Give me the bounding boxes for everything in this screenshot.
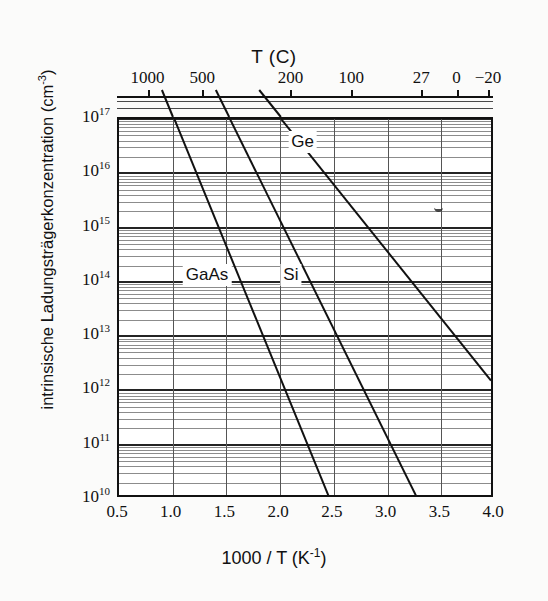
- y-tick-base: 10: [82, 378, 99, 397]
- top-axis-tick-label: 500: [190, 68, 216, 88]
- y-axis-tick-label: 1013: [62, 324, 110, 344]
- y-tick-base: 10: [82, 433, 99, 452]
- y-tick-exponent: 16: [99, 160, 110, 172]
- y-axis-tick-label: 1011: [62, 433, 110, 453]
- x-axis-tick-label: 2.0: [268, 502, 289, 522]
- y-tick-base: 10: [82, 270, 99, 289]
- series-overshoot-ge: [259, 90, 281, 117]
- y-tick-base: 10: [82, 216, 99, 235]
- top-axis-tick-label: 100: [339, 68, 365, 88]
- y-axis-tick-label: 1010: [62, 487, 110, 507]
- y-tick-exponent: 13: [99, 322, 110, 334]
- top-axis-tick-label: 1000: [131, 68, 165, 88]
- x-axis-tick-label: 4.0: [482, 502, 503, 522]
- top-axis-tick-label: 27: [413, 68, 430, 88]
- series-line-ge: [248, 117, 491, 381]
- top-axis-tick-label: 200: [278, 68, 304, 88]
- y-axis-tick-label: 1015: [62, 216, 110, 236]
- y-tick-base: 10: [82, 107, 99, 126]
- top-axis-title: T (C): [0, 46, 548, 68]
- x-axis-tick-label: 3.0: [375, 502, 396, 522]
- y-axis-title-text: intrinsische Ladungsträgerkonzentration …: [38, 85, 56, 410]
- series-label-ge: Ge: [288, 131, 317, 153]
- y-tick-exponent: 15: [99, 214, 110, 226]
- y-tick-base: 10: [82, 324, 99, 343]
- y-tick-base: 10: [82, 487, 99, 506]
- x-axis-tick-label: 3.5: [429, 502, 450, 522]
- y-tick-base: 10: [82, 161, 99, 180]
- y-axis-tick-label: 1014: [62, 270, 110, 290]
- x-axis-tick-label: 0.5: [106, 502, 127, 522]
- y-tick-exponent: 10: [99, 485, 110, 497]
- y-tick-exponent: 14: [99, 268, 110, 280]
- y-tick-exponent: 17: [99, 105, 110, 117]
- x-axis-tick-label: 2.5: [321, 502, 342, 522]
- series-overshoot-gaas: [162, 90, 173, 117]
- series-lines: [119, 119, 491, 495]
- series-label-si: Si: [280, 264, 301, 286]
- y-tick-exponent: 11: [99, 431, 110, 443]
- top-axis-tick-label: 0: [452, 68, 461, 88]
- top-axis-tick-label: −20: [475, 68, 502, 88]
- series-label-gaas: GaAs: [183, 264, 232, 286]
- x-axis-tick-label: 1.5: [214, 502, 235, 522]
- x-axis-title-exponent: -1: [310, 546, 321, 560]
- y-tick-exponent: 12: [99, 377, 110, 389]
- plot-area: GeSiGaAs: [117, 117, 493, 497]
- y-axis-tick-label: 1016: [62, 161, 110, 181]
- curve-overshoot-segments: [117, 90, 493, 120]
- y-axis-tick-label: 1017: [62, 107, 110, 127]
- semiconductor-intrinsic-carrier-concentration-chart: T (C) 1000500200100270−20 GeSiGaAs 10101…: [0, 0, 548, 601]
- series-line-si: [209, 117, 419, 497]
- x-axis-tick-label: 1.0: [160, 502, 181, 522]
- series-overshoot-si: [216, 90, 229, 117]
- y-axis-title-tail: ): [38, 70, 56, 76]
- x-axis-title: 1000 / T (K-1): [0, 548, 548, 569]
- y-axis-tick-label: 1012: [62, 378, 110, 398]
- y-axis-title-exponent: -3: [36, 75, 48, 85]
- x-axis-title-tail: ): [321, 548, 327, 568]
- y-axis-title: intrinsische Ladungsträgerkonzentration …: [38, 30, 57, 450]
- x-axis-title-text: 1000 / T (K: [221, 548, 309, 568]
- scan-artifact-smudge: [434, 203, 443, 212]
- series-line-gaas: [157, 117, 331, 497]
